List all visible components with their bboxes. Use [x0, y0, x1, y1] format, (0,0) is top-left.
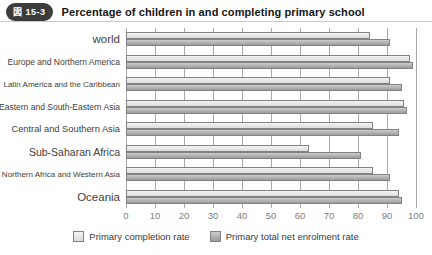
x-tick-label: 70 [324, 210, 335, 221]
legend-swatch [210, 231, 221, 242]
bar-completion-rate [126, 122, 373, 129]
figure-number-badge: 図 15-3 [6, 3, 53, 21]
category-row [126, 51, 416, 74]
x-tick-label: 100 [408, 210, 424, 221]
x-tick-label: 10 [150, 210, 161, 221]
figure-title: Percentage of children in and completing… [62, 6, 365, 18]
category-label: Central and Southern Asia [0, 118, 123, 141]
legend-label: Primary total net enrolment rate [226, 231, 359, 242]
legend-label: Primary completion rate [89, 231, 189, 242]
bar-net-enrolment-rate [126, 129, 399, 136]
x-axis: 0102030405060708090100 [126, 210, 416, 224]
legend-item: Primary completion rate [73, 231, 189, 242]
x-tick-label: 80 [353, 210, 364, 221]
legend-swatch [73, 231, 84, 242]
category-label: Northern Africa and Western Asia [0, 163, 123, 186]
bar-completion-rate [126, 145, 309, 152]
bar-net-enrolment-rate [126, 107, 407, 114]
category-row [126, 28, 416, 51]
category-label: world [0, 28, 123, 51]
category-label: Sub-Saharan Africa [0, 141, 123, 164]
x-tick-label: 30 [208, 210, 219, 221]
category-row [126, 186, 416, 209]
category-labels: worldEurope and Northern AmericaLatin Am… [0, 28, 123, 208]
plot-area [126, 28, 416, 208]
x-tick-label: 20 [179, 210, 190, 221]
bar-net-enrolment-rate [126, 39, 390, 46]
bar-completion-rate [126, 32, 370, 39]
bar-completion-rate [126, 55, 410, 62]
legend-item: Primary total net enrolment rate [210, 231, 359, 242]
bar-net-enrolment-rate [126, 197, 402, 204]
legend: Primary completion ratePrimary total net… [0, 231, 432, 242]
x-tick-label: 50 [266, 210, 277, 221]
bar-net-enrolment-rate [126, 84, 402, 91]
bar-net-enrolment-rate [126, 152, 361, 159]
category-label: Latin America and the Caribbean [0, 73, 123, 96]
figure: 図 15-3 Percentage of children in and com… [0, 0, 432, 255]
x-tick-label: 90 [382, 210, 393, 221]
category-label: Eastern and South-Eastern Asia [0, 96, 123, 119]
bar-chart: worldEurope and Northern AmericaLatin Am… [0, 28, 432, 210]
bar-net-enrolment-rate [126, 174, 390, 181]
figure-header: 図 15-3 Percentage of children in and com… [0, 0, 432, 22]
x-tick-label: 0 [123, 210, 128, 221]
category-label: Oceania [0, 186, 123, 209]
category-row [126, 96, 416, 119]
x-tick-label: 60 [295, 210, 306, 221]
bar-completion-rate [126, 100, 404, 107]
bar-completion-rate [126, 77, 390, 84]
x-tick-label: 40 [237, 210, 248, 221]
gridline [416, 28, 417, 208]
bar-completion-rate [126, 167, 373, 174]
bar-net-enrolment-rate [126, 62, 413, 69]
bar-completion-rate [126, 190, 399, 197]
category-row [126, 118, 416, 141]
category-row [126, 141, 416, 164]
category-row [126, 73, 416, 96]
category-row [126, 163, 416, 186]
category-label: Europe and Northern America [0, 51, 123, 74]
